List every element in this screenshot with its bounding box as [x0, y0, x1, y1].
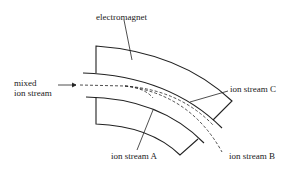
label-ion-stream-a: ion stream A [111, 151, 157, 161]
channel-lower-wall [86, 97, 204, 143]
channel-upper-wall [83, 73, 222, 128]
label-mixed: mixed [14, 78, 37, 88]
label-ion-stream-b: ion stream B [229, 151, 275, 161]
stream-c-leader [190, 91, 228, 102]
upper-magnet [96, 46, 232, 120]
electromagnet-leader [124, 20, 132, 60]
stream-a-leader [137, 110, 153, 150]
label-electromagnet: electromagnet [96, 12, 147, 22]
label-ion-stream-c: ion stream C [230, 84, 276, 94]
label-ion-stream: ion stream [14, 88, 52, 98]
ion-stream-a-path [125, 86, 153, 98]
incoming-stream [80, 85, 125, 86]
mass-spectrometer-diagram: electromagnet mixed ion stream ion strea… [0, 0, 296, 170]
